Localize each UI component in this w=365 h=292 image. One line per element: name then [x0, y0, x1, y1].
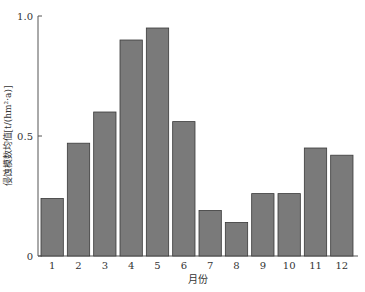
y-axis-label: 侵蚀模数均值[t/(hm²·a)] — [2, 86, 13, 187]
x-tick-label: 6 — [181, 260, 187, 271]
bar-8 — [225, 222, 247, 256]
bar-6 — [173, 122, 195, 256]
bar-9 — [252, 194, 274, 256]
bar-10 — [278, 194, 300, 256]
x-tick-label: 7 — [207, 260, 213, 271]
x-tick-label: 5 — [154, 260, 160, 271]
bar-2 — [67, 143, 89, 256]
bar-12 — [331, 155, 353, 256]
bar-chart: 00.51.0 123456789101112月份侵蚀模数均值[t/(hm²·a… — [0, 0, 365, 292]
x-tick-label: 3 — [102, 260, 108, 271]
x-tick-label: 1 — [49, 260, 55, 271]
x-tick-label: 10 — [283, 260, 296, 271]
x-tick-label: 8 — [233, 260, 239, 271]
x-tick-label: 2 — [75, 260, 81, 271]
bar-5 — [146, 28, 168, 256]
x-axis-label: 月份 — [188, 274, 208, 285]
bar-4 — [120, 40, 142, 256]
bar-11 — [304, 148, 326, 256]
x-tick-label: 11 — [309, 260, 322, 271]
bar-7 — [199, 210, 221, 256]
y-tick-label: 0.5 — [17, 131, 33, 142]
y-tick-label: 1.0 — [17, 11, 33, 22]
bar-1 — [41, 198, 63, 256]
x-tick-label: 12 — [335, 260, 348, 271]
x-tick-label: 9 — [260, 260, 266, 271]
x-tick-label: 4 — [128, 260, 134, 271]
y-tick-label: 0 — [27, 251, 33, 262]
bar-3 — [94, 112, 116, 256]
bars — [41, 28, 353, 256]
